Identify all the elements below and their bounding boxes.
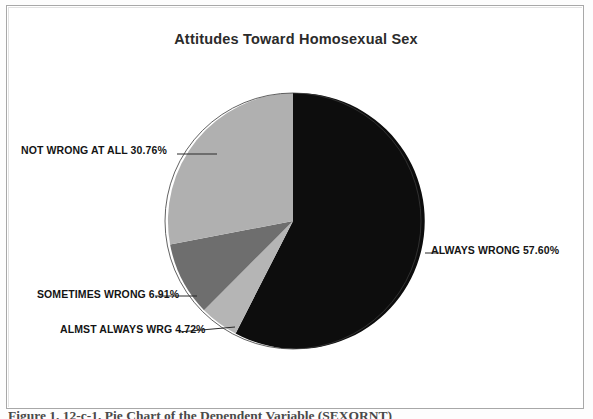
pie-slice-not-wrong-at-all[interactable]: [168, 93, 293, 244]
pie-chart: NOT WRONG AT ALL 30.76% ALWAYS WRONG 57.…: [7, 6, 585, 410]
pie-chart-svg: [7, 6, 585, 410]
pie-label-always-wrong: ALWAYS WRONG 57.60%: [431, 244, 559, 256]
figure-frame: Attitudes Toward Homosexual Sex NOT WRON…: [6, 5, 584, 409]
pie-label-not-wrong-at-all: NOT WRONG AT ALL 30.76%: [21, 144, 167, 156]
pie-label-almost-always-wrong: ALMST ALWAYS WRG 4.72%: [60, 323, 206, 335]
figure-caption: Figure 1. 12-c-1. Pie Chart of the Depen…: [8, 408, 478, 419]
pie-label-sometimes-wrong: SOMETIMES WRONG 6.91%: [37, 288, 179, 300]
scanned-page: Attitudes Toward Homosexual Sex NOT WRON…: [0, 0, 593, 419]
